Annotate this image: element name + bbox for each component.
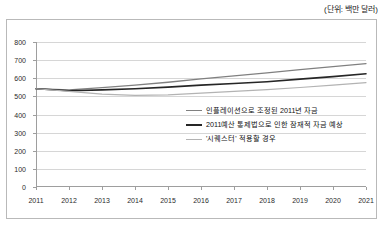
x-tick-label: 2019 (292, 197, 308, 204)
y-tick-label: 700 (0, 57, 26, 64)
x-tick-mark (135, 187, 136, 190)
x-tick-mark (234, 187, 235, 190)
x-tick-label: 2012 (61, 197, 77, 204)
x-tick-mark (333, 187, 334, 190)
x-tick-label: 2014 (127, 197, 143, 204)
chart-legend: 인플레이션으로 조정된 2011년 자금2011예산 통제법으로 인한 잠재적 … (186, 107, 343, 143)
x-tick-label: 2016 (193, 197, 209, 204)
x-tick-label: 2020 (325, 197, 341, 204)
chart-screenshot: (단위: 백만 달러) 0100200300400500600700800 20… (0, 0, 384, 225)
x-tick-label: 2015 (160, 197, 176, 204)
y-tick-label: 300 (0, 129, 26, 136)
legend-label: 2011예산 통제법으로 인한 잠재적 자금 예상 (206, 121, 343, 128)
y-tick-label: 800 (0, 39, 26, 46)
x-tick-mark (36, 187, 37, 190)
legend-line-swatch (186, 110, 202, 111)
legend-line-swatch (186, 124, 202, 126)
x-tick-mark (267, 187, 268, 190)
legend-item: 2011예산 통제법으로 인한 잠재적 자금 예상 (186, 121, 343, 128)
legend-item: '시퀘스터' 적용할 경우 (186, 135, 343, 142)
x-tick-mark (201, 187, 202, 190)
x-tick-label: 2011 (28, 197, 43, 204)
y-tick-label: 500 (0, 93, 26, 100)
x-tick-label: 2013 (94, 197, 110, 204)
y-tick-label: 0 (0, 184, 26, 191)
x-tick-mark (69, 187, 70, 190)
legend-item: 인플레이션으로 조정된 2011년 자금 (186, 107, 343, 114)
y-tick-label: 100 (0, 165, 26, 172)
legend-label: 인플레이션으로 조정된 2011년 자금 (206, 107, 318, 114)
x-tick-mark (300, 187, 301, 190)
x-tick-mark (168, 187, 169, 190)
x-tick-label: 2018 (259, 197, 275, 204)
y-tick-label: 200 (0, 147, 26, 154)
x-tick-mark (366, 187, 367, 190)
legend-label: '시퀘스터' 적용할 경우 (206, 135, 276, 142)
x-tick-label: 2021 (358, 197, 374, 204)
plot-area: 0100200300400500600700800 20112012201320… (36, 42, 366, 187)
unit-note: (단위: 백만 달러) (324, 3, 378, 14)
x-tick-mark (102, 187, 103, 190)
x-tick-label: 2017 (226, 197, 242, 204)
y-tick-label: 600 (0, 75, 26, 82)
y-tick-label: 400 (0, 111, 26, 118)
legend-line-swatch (186, 139, 202, 140)
